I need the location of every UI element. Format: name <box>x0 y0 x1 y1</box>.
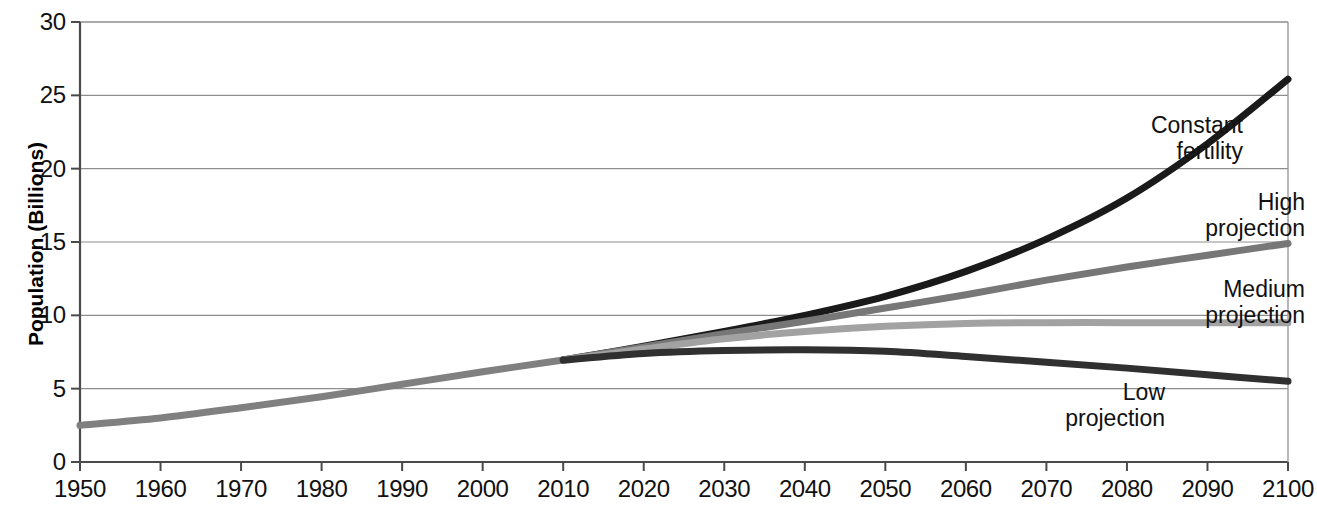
x-tick-label: 2090 <box>1182 475 1234 503</box>
series-label-line: projection <box>0 303 1305 329</box>
x-tick-label: 2010 <box>537 475 589 503</box>
x-tick-label: 2080 <box>1101 475 1153 503</box>
series-label-line: projection <box>0 216 1305 242</box>
x-axis-ticks <box>80 462 1288 471</box>
y-tick-label: 0 <box>0 448 66 476</box>
x-tick-label: 2100 <box>1262 475 1314 503</box>
x-tick-label: 2040 <box>779 475 831 503</box>
series-line-low-projection <box>563 350 1288 382</box>
x-tick-label: 1960 <box>135 475 187 503</box>
y-tick-label: 30 <box>0 8 66 36</box>
x-tick-label: 2050 <box>859 475 911 503</box>
series-label-line: projection <box>0 406 1165 432</box>
x-tick-label: 1970 <box>215 475 267 503</box>
series-label-line: fertility <box>0 139 1243 165</box>
x-tick-label: 2030 <box>698 475 750 503</box>
series-label-low-projection: Lowprojection <box>0 380 1165 432</box>
series-label-line: Low <box>0 380 1165 406</box>
x-tick-label: 1950 <box>54 475 106 503</box>
x-tick-label: 2000 <box>457 475 509 503</box>
series-label-line: High <box>0 190 1305 216</box>
series-label-constant-fertility: Constantfertility <box>0 113 1243 165</box>
plot-area <box>0 0 1317 532</box>
series-label-high-projection: Highprojection <box>0 190 1305 242</box>
x-tick-label: 2020 <box>618 475 670 503</box>
y-tick-label: 25 <box>0 81 66 109</box>
x-tick-label: 2070 <box>1020 475 1072 503</box>
population-projection-chart: Population (Billions) 051015202530 19501… <box>0 0 1317 532</box>
x-tick-label: 2060 <box>940 475 992 503</box>
x-tick-label: 1990 <box>376 475 428 503</box>
x-tick-label: 1980 <box>296 475 348 503</box>
series-label-line: Constant <box>0 113 1243 139</box>
series-label-medium-projection: Mediumprojection <box>0 277 1305 329</box>
series-label-line: Medium <box>0 277 1305 303</box>
